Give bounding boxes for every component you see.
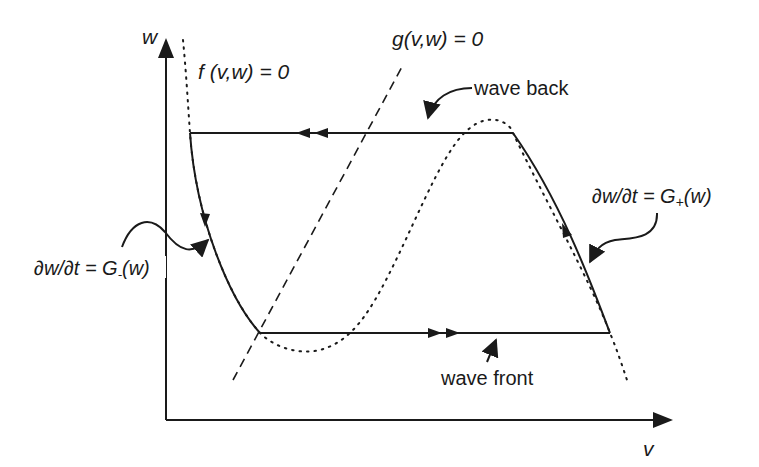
g-plus-pointer bbox=[590, 213, 657, 262]
annotation-pointers bbox=[122, 88, 657, 362]
trajectory bbox=[190, 133, 610, 333]
g-minus-label: ∂w/∂t = G-(w) bbox=[34, 258, 150, 281]
double-arrow-left-icon bbox=[296, 128, 310, 138]
left-branch bbox=[190, 133, 260, 333]
double-arrow-left-icon bbox=[314, 128, 328, 138]
double-arrow-right-icon bbox=[428, 328, 442, 338]
direction-arrows bbox=[200, 128, 572, 338]
g-minus-prefix: ∂w/∂t = G bbox=[34, 257, 118, 279]
v-axis-arrow-icon bbox=[653, 412, 673, 428]
g-plus-subscript: + bbox=[676, 194, 684, 210]
axes bbox=[158, 38, 673, 428]
w-axis-label: w bbox=[142, 26, 157, 47]
arrow-down-left-branch-icon bbox=[200, 213, 210, 227]
g-nullcline-label: g(v,w) = 0 bbox=[392, 28, 483, 49]
wave-back-pointer bbox=[428, 88, 472, 118]
g-minus-suffix: (w) bbox=[122, 257, 150, 279]
g-plus-prefix: ∂w/∂t = G bbox=[592, 185, 676, 207]
wave-front-label: wave front bbox=[441, 368, 533, 388]
wave-front-pointer bbox=[487, 340, 496, 362]
wave-back-label: wave back bbox=[474, 78, 569, 98]
right-branch bbox=[513, 133, 610, 333]
f-nullcline-label: f (v,w) = 0 bbox=[198, 61, 289, 82]
phase-plane-diagram bbox=[0, 0, 759, 467]
w-axis-arrow-icon bbox=[158, 38, 174, 58]
v-axis-label: v bbox=[643, 438, 654, 459]
double-arrow-right-icon bbox=[446, 328, 460, 338]
g-plus-suffix: (w) bbox=[684, 185, 712, 207]
g-plus-label: ∂w/∂t = G+(w) bbox=[592, 186, 712, 209]
